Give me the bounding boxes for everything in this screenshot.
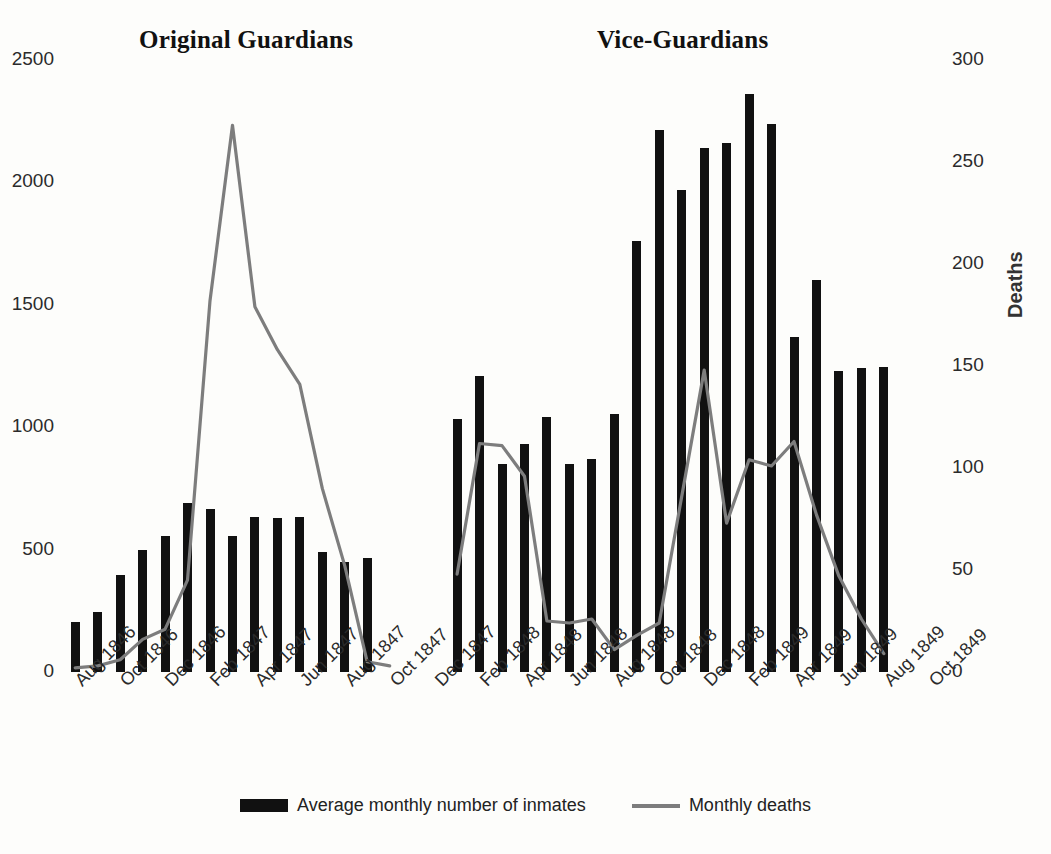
- left-axis-tick: 2000: [12, 170, 54, 192]
- right-axis-tick: 100: [952, 456, 984, 478]
- chart-page: Original Guardians Vice-Guardians 050010…: [0, 0, 1051, 854]
- legend-label-deaths: Monthly deaths: [689, 795, 811, 816]
- left-axis-tick: 1500: [12, 293, 54, 315]
- left-axis-tick: 0: [43, 660, 54, 682]
- right-axis-tick: 150: [952, 354, 984, 376]
- right-axis-title: Deaths: [1004, 251, 1027, 318]
- left-axis-tick: 2500: [12, 48, 54, 70]
- line-swatch-icon: [632, 804, 680, 808]
- line-series: [64, 60, 940, 672]
- right-axis-tick: 50: [952, 558, 973, 580]
- section-title-vice-guardians: Vice-Guardians: [597, 26, 768, 54]
- section-title-original-guardians: Original Guardians: [139, 26, 353, 54]
- plot-area: 05001000150020002500 050100150200250300: [64, 60, 940, 672]
- monthly-deaths-line: [75, 125, 390, 668]
- legend-item-inmates: Average monthly number of inmates: [240, 795, 586, 816]
- legend-label-inmates: Average monthly number of inmates: [297, 795, 586, 816]
- left-axis-tick: 1000: [12, 415, 54, 437]
- plot-inner: 05001000150020002500 050100150200250300: [64, 60, 940, 672]
- chart-legend: Average monthly number of inmates Monthl…: [0, 795, 1051, 816]
- x-axis-labels: Aug 1846Oct 1846Dec 1846Feb 1847Apr 1847…: [64, 676, 940, 786]
- monthly-deaths-line: [457, 370, 884, 653]
- bar-swatch-icon: [240, 799, 288, 812]
- legend-item-deaths: Monthly deaths: [632, 795, 811, 816]
- right-axis-tick: 300: [952, 48, 984, 70]
- right-axis-tick: 250: [952, 150, 984, 172]
- left-axis-tick: 500: [22, 538, 54, 560]
- right-axis-tick: 200: [952, 252, 984, 274]
